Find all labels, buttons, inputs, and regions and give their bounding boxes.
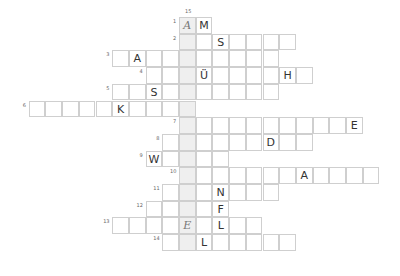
crossword-cell[interactable] bbox=[229, 67, 246, 84]
crossword-cell[interactable] bbox=[146, 217, 163, 234]
crossword-cell[interactable] bbox=[246, 217, 263, 234]
crossword-cell[interactable] bbox=[162, 151, 179, 168]
crossword-cell[interactable]: N bbox=[212, 184, 229, 201]
crossword-cell[interactable] bbox=[229, 234, 246, 251]
crossword-cell[interactable] bbox=[146, 50, 163, 67]
crossword-cell[interactable] bbox=[229, 84, 246, 101]
crossword-cell[interactable] bbox=[162, 101, 179, 118]
crossword-cell[interactable] bbox=[96, 101, 113, 118]
crossword-cell[interactable] bbox=[313, 117, 330, 134]
crossword-cell[interactable] bbox=[162, 201, 179, 218]
crossword-cell[interactable] bbox=[146, 201, 163, 218]
solution-cell[interactable] bbox=[179, 84, 196, 101]
crossword-cell[interactable]: K bbox=[112, 101, 129, 118]
crossword-cell[interactable] bbox=[79, 101, 96, 118]
solution-cell[interactable] bbox=[179, 167, 196, 184]
crossword-cell[interactable] bbox=[279, 34, 296, 51]
crossword-cell[interactable] bbox=[196, 151, 213, 168]
crossword-cell[interactable] bbox=[263, 67, 280, 84]
crossword-cell[interactable] bbox=[263, 184, 280, 201]
solution-cell[interactable] bbox=[179, 134, 196, 151]
crossword-cell[interactable] bbox=[263, 117, 280, 134]
crossword-cell[interactable] bbox=[246, 84, 263, 101]
crossword-cell[interactable] bbox=[212, 167, 229, 184]
crossword-cell[interactable] bbox=[112, 84, 129, 101]
solution-cell[interactable] bbox=[179, 117, 196, 134]
crossword-cell[interactable]: H bbox=[279, 67, 296, 84]
crossword-cell[interactable] bbox=[296, 67, 313, 84]
crossword-cell[interactable] bbox=[212, 50, 229, 67]
crossword-cell[interactable] bbox=[279, 234, 296, 251]
solution-cell[interactable]: E bbox=[179, 217, 196, 234]
crossword-cell[interactable] bbox=[29, 101, 46, 118]
crossword-cell[interactable] bbox=[329, 117, 346, 134]
crossword-cell[interactable] bbox=[212, 234, 229, 251]
crossword-cell[interactable] bbox=[279, 167, 296, 184]
crossword-cell[interactable] bbox=[112, 217, 129, 234]
solution-cell[interactable] bbox=[179, 234, 196, 251]
crossword-cell[interactable] bbox=[363, 167, 380, 184]
crossword-cell[interactable] bbox=[212, 84, 229, 101]
crossword-cell[interactable]: L bbox=[212, 217, 229, 234]
crossword-cell[interactable] bbox=[212, 134, 229, 151]
crossword-cell[interactable]: M bbox=[196, 17, 213, 34]
crossword-cell[interactable] bbox=[212, 117, 229, 134]
crossword-cell[interactable] bbox=[263, 50, 280, 67]
crossword-cell[interactable] bbox=[346, 167, 363, 184]
crossword-cell[interactable] bbox=[162, 184, 179, 201]
crossword-cell[interactable] bbox=[112, 50, 129, 67]
crossword-cell[interactable] bbox=[229, 34, 246, 51]
crossword-cell[interactable] bbox=[62, 101, 79, 118]
crossword-cell[interactable] bbox=[296, 117, 313, 134]
solution-cell[interactable] bbox=[179, 184, 196, 201]
crossword-cell[interactable]: A bbox=[296, 167, 313, 184]
crossword-cell[interactable] bbox=[246, 134, 263, 151]
crossword-cell[interactable] bbox=[229, 217, 246, 234]
crossword-cell[interactable]: F bbox=[212, 201, 229, 218]
crossword-cell[interactable] bbox=[263, 167, 280, 184]
solution-cell[interactable] bbox=[179, 201, 196, 218]
crossword-cell[interactable]: Ü bbox=[196, 67, 213, 84]
crossword-cell[interactable] bbox=[246, 117, 263, 134]
crossword-cell[interactable] bbox=[246, 167, 263, 184]
crossword-cell[interactable] bbox=[263, 84, 280, 101]
crossword-cell[interactable] bbox=[196, 117, 213, 134]
crossword-cell[interactable] bbox=[263, 34, 280, 51]
crossword-cell[interactable] bbox=[196, 184, 213, 201]
solution-cell[interactable] bbox=[179, 34, 196, 51]
crossword-cell[interactable] bbox=[212, 67, 229, 84]
crossword-cell[interactable] bbox=[129, 101, 146, 118]
crossword-cell[interactable] bbox=[146, 101, 163, 118]
crossword-cell[interactable]: E bbox=[346, 117, 363, 134]
crossword-cell[interactable]: D bbox=[263, 134, 280, 151]
crossword-cell[interactable] bbox=[162, 50, 179, 67]
crossword-cell[interactable] bbox=[212, 151, 229, 168]
crossword-cell[interactable] bbox=[329, 167, 346, 184]
crossword-cell[interactable] bbox=[313, 167, 330, 184]
crossword-cell[interactable] bbox=[196, 167, 213, 184]
crossword-cell[interactable] bbox=[279, 117, 296, 134]
crossword-cell[interactable] bbox=[246, 50, 263, 67]
crossword-cell[interactable] bbox=[263, 234, 280, 251]
crossword-cell[interactable] bbox=[229, 184, 246, 201]
crossword-cell[interactable] bbox=[279, 134, 296, 151]
solution-cell[interactable] bbox=[179, 67, 196, 84]
crossword-cell[interactable] bbox=[246, 34, 263, 51]
crossword-cell[interactable] bbox=[246, 67, 263, 84]
solution-cell[interactable] bbox=[179, 50, 196, 67]
crossword-cell[interactable] bbox=[129, 217, 146, 234]
solution-cell[interactable]: A bbox=[179, 17, 196, 34]
crossword-cell[interactable] bbox=[196, 84, 213, 101]
crossword-cell[interactable]: S bbox=[212, 34, 229, 51]
crossword-cell[interactable] bbox=[229, 167, 246, 184]
crossword-cell[interactable] bbox=[162, 234, 179, 251]
crossword-cell[interactable] bbox=[146, 67, 163, 84]
crossword-cell[interactable] bbox=[246, 184, 263, 201]
crossword-cell[interactable]: W bbox=[146, 151, 163, 168]
solution-cell[interactable] bbox=[179, 151, 196, 168]
crossword-cell[interactable] bbox=[196, 34, 213, 51]
crossword-cell[interactable] bbox=[162, 67, 179, 84]
crossword-cell[interactable]: A bbox=[129, 50, 146, 67]
crossword-cell[interactable] bbox=[229, 50, 246, 67]
crossword-cell[interactable] bbox=[229, 134, 246, 151]
